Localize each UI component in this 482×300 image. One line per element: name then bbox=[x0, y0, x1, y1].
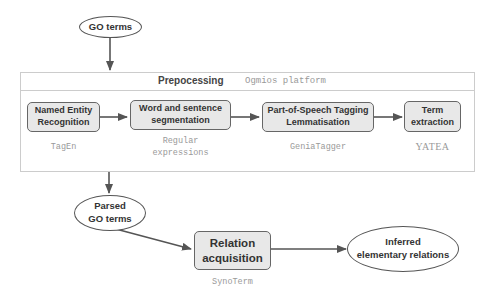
parsed-label-line2: GO terms bbox=[88, 213, 131, 226]
step-named-entity-recognition: Named Entity Recognition bbox=[27, 102, 100, 132]
tool-line1: GeniaTagger bbox=[262, 141, 374, 153]
tool-regular-expressions: Regular expressions bbox=[130, 135, 231, 160]
tool-geniatagger: GeniaTagger bbox=[262, 141, 374, 153]
step-term-extraction: Term extraction bbox=[404, 101, 461, 132]
step-label-line1: Word and sentence bbox=[139, 103, 222, 115]
preprocessing-title: Prepocessing bbox=[158, 75, 224, 86]
inferred-label-line2: elementary relations bbox=[357, 249, 449, 262]
go-terms-label: GO terms bbox=[89, 21, 132, 34]
tool-line1: Regular bbox=[130, 135, 231, 147]
inferred-label-line1: Inferred bbox=[357, 236, 449, 249]
tool-yatea: YATEA bbox=[404, 140, 461, 155]
step-label-line2: Lemmatisation bbox=[268, 117, 369, 129]
tool-line1: YATEA bbox=[415, 141, 449, 152]
preprocessing-platform: Ogmios platform bbox=[245, 76, 326, 86]
go-terms-node: GO terms bbox=[79, 16, 142, 38]
arrow-parsed-to-relation bbox=[112, 228, 191, 249]
tool-line2: expressions bbox=[130, 147, 231, 159]
step-pos-tagging-lemmatisation: Part-of-Speech Tagging Lemmatisation bbox=[262, 102, 374, 132]
step-label-line2: extraction bbox=[411, 117, 454, 129]
step-label-line1: Part-of-Speech Tagging bbox=[268, 105, 369, 117]
parsed-label-line1: Parsed bbox=[88, 200, 131, 213]
tool-tagen: TagEn bbox=[27, 141, 100, 153]
step-label-line2: segmentation bbox=[139, 115, 222, 127]
step-word-sentence-segmentation: Word and sentence segmentation bbox=[130, 100, 231, 130]
preprocessing-header: Prepocessing Ogmios platform bbox=[21, 73, 474, 91]
step-label-line1: Term bbox=[411, 105, 454, 117]
parsed-go-terms-node: Parsed GO terms bbox=[74, 195, 146, 231]
relation-label-line2: acquisition bbox=[202, 251, 263, 266]
step-label-line1: Named Entity bbox=[35, 105, 93, 117]
tool-line1: TagEn bbox=[27, 141, 100, 153]
relation-label-line1: Relation bbox=[202, 236, 263, 251]
inferred-relations-node: Inferred elementary relations bbox=[347, 226, 459, 272]
step-relation-acquisition: Relation acquisition bbox=[194, 231, 271, 270]
step-label-line2: Recognition bbox=[35, 117, 93, 129]
tool-synoterm: SynoTerm bbox=[194, 276, 271, 288]
tool-label: SynoTerm bbox=[212, 277, 253, 287]
